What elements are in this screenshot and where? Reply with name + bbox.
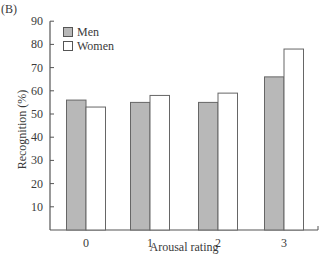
legend: Men Women xyxy=(63,25,114,53)
bar-men-1 xyxy=(131,102,151,230)
y-tick-label: 40 xyxy=(31,130,43,144)
legend-swatch-men xyxy=(63,27,73,37)
bars xyxy=(67,49,304,230)
bar-women-2 xyxy=(218,93,238,230)
legend-swatch-women xyxy=(63,41,73,51)
legend-item-men: Men xyxy=(63,25,114,39)
y-tick-label: 70 xyxy=(31,61,43,75)
legend-label-men: Men xyxy=(77,25,99,40)
bar-women-3 xyxy=(284,49,304,230)
y-tick-label: 60 xyxy=(31,84,43,98)
y-tick-label: 20 xyxy=(31,177,43,191)
y-tick-label: 90 xyxy=(31,14,43,28)
x-axis-label: Arousal rating xyxy=(50,240,318,255)
legend-item-women: Women xyxy=(63,39,114,53)
bar-men-2 xyxy=(199,102,219,230)
y-axis-label: Recognition (%) xyxy=(15,80,30,180)
bar-women-0 xyxy=(86,107,106,230)
y-tick-label: 80 xyxy=(31,37,43,51)
y-tick-label: 50 xyxy=(31,107,43,121)
y-tick-label: 30 xyxy=(31,153,43,167)
bar-chart-plot: 1020304050607080900123 xyxy=(0,0,319,258)
legend-label-women: Women xyxy=(77,39,114,54)
bar-women-1 xyxy=(150,95,170,230)
y-tick-label: 10 xyxy=(31,200,43,214)
bar-men-0 xyxy=(67,100,87,230)
bar-men-3 xyxy=(265,77,285,230)
